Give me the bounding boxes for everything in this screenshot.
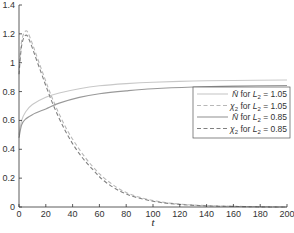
y-tick-label: 1 [10, 58, 15, 68]
y-tick-label: 1.2 [2, 29, 15, 39]
line-chart: 00.20.40.60.811.21.4 0204060801001201401… [0, 0, 294, 233]
y-tick-label: 0.8 [2, 87, 15, 97]
y-tick-label: 0.2 [2, 173, 15, 183]
x-tick-label: 60 [94, 209, 104, 219]
y-tick-label: 0 [10, 202, 15, 212]
y-tick-label: 0.4 [2, 144, 15, 154]
x-tick-label: 180 [253, 209, 268, 219]
x-tick-label: 160 [226, 209, 241, 219]
x-tick-label: 0 [16, 209, 21, 219]
y-tick-label: 0.6 [2, 115, 15, 125]
legend: N̄ for L2 = 1.05χ2 for L2 = 1.05N̄ for L… [193, 87, 290, 138]
x-tick-label: 140 [199, 209, 214, 219]
x-tick-label: 40 [68, 209, 78, 219]
x-tick-label: 80 [121, 209, 131, 219]
x-tick-label: 120 [172, 209, 187, 219]
x-tick-label: 20 [41, 209, 51, 219]
y-tick-label: 1.4 [2, 0, 15, 10]
x-tick-label: 200 [279, 209, 294, 219]
